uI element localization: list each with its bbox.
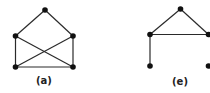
graph-a-label: (a) xyxy=(36,75,52,86)
graph-a xyxy=(13,7,76,70)
edge-top-ul xyxy=(16,10,46,36)
node-ll xyxy=(147,63,153,69)
node-ul xyxy=(147,32,153,38)
node-top xyxy=(42,7,48,13)
node-ur xyxy=(70,33,76,39)
graph-e xyxy=(147,6,210,69)
node-lr xyxy=(206,63,210,69)
graph-e-label: (e) xyxy=(172,76,188,87)
edge-top-ur xyxy=(181,9,209,35)
node-ll xyxy=(13,64,19,70)
node-ul xyxy=(13,33,19,39)
edge-top-ur xyxy=(45,10,73,36)
node-lr xyxy=(70,64,76,70)
node-top xyxy=(178,6,184,12)
graph-diagrams: (a) (e) xyxy=(0,0,210,93)
edge-top-ul xyxy=(150,9,181,35)
